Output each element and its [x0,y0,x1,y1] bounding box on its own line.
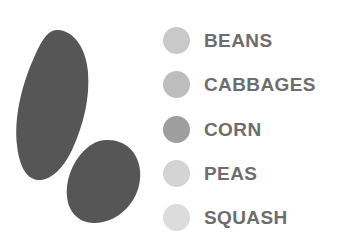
legend-swatch-icon-cabbages [163,71,190,98]
blob-shapes-svg [0,0,160,252]
legend-swatch-icon-squash [163,204,190,231]
legend-label-peas: PEAS [204,164,257,183]
legend-figure: BEANS CABBAGES CORN PEAS SQUASH [0,0,342,252]
legend-item-cabbages[interactable]: CABBAGES [163,62,342,106]
shapes-panel [0,0,160,252]
large-blob-shape [16,30,88,180]
legend-swatch-icon-peas [163,160,190,187]
legend-label-beans: BEANS [204,31,273,50]
legend-item-peas[interactable]: PEAS [163,151,342,195]
legend: BEANS CABBAGES CORN PEAS SQUASH [163,18,342,240]
legend-item-corn[interactable]: CORN [163,107,342,151]
legend-swatch-icon-beans [163,27,190,54]
legend-label-squash: SQUASH [204,208,288,227]
legend-item-beans[interactable]: BEANS [163,18,342,62]
legend-label-corn: CORN [204,120,262,139]
legend-label-cabbages: CABBAGES [204,75,316,94]
legend-item-squash[interactable]: SQUASH [163,196,342,240]
legend-swatch-icon-corn [163,116,190,143]
small-blob-shape [67,140,140,223]
